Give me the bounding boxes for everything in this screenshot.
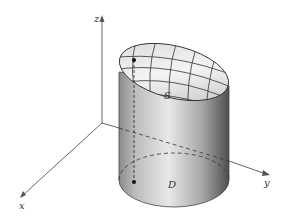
- z-axis-arrow-icon: [100, 15, 105, 22]
- z-axis-label: z: [93, 13, 100, 24]
- y-axis-arrow-icon: [262, 170, 270, 176]
- diagram: z x y S D: [0, 0, 285, 224]
- surface-label: S: [164, 90, 171, 101]
- x-axis-arrow-icon: [20, 191, 26, 198]
- region-point-dot: [132, 180, 136, 184]
- x-axis: [22, 123, 102, 196]
- y-axis: [229, 161, 266, 174]
- surface-point-dot: [132, 58, 136, 62]
- x-axis-label: x: [19, 200, 25, 211]
- y-axis-visible-start: [102, 123, 119, 128]
- y-axis-label: y: [263, 177, 270, 188]
- region-label: D: [167, 179, 176, 190]
- axes: [20, 15, 119, 198]
